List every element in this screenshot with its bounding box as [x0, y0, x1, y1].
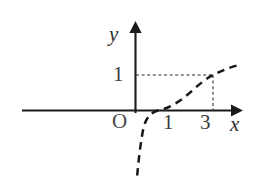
- x-tick-label-1: 1: [163, 112, 174, 133]
- y-tick-label-1: 1: [113, 64, 124, 85]
- y-axis-arrowhead: [129, 21, 141, 33]
- log-curve: [137, 65, 240, 176]
- coordinate-plot-svg: [0, 0, 257, 184]
- y-axis: [129, 21, 141, 113]
- y-axis-label: y: [109, 24, 118, 45]
- x-tick-label-3: 3: [200, 112, 211, 133]
- origin-label: O: [112, 111, 127, 132]
- math-figure: y x 1 O 1 3: [0, 0, 257, 184]
- x-axis-label: x: [230, 114, 239, 135]
